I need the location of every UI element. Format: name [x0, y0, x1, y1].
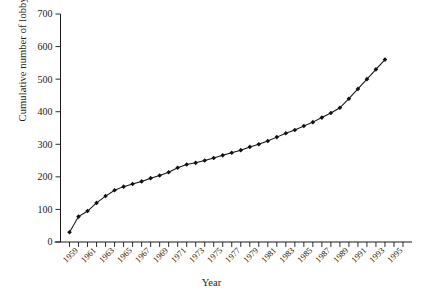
line-chart-plot: 0100200300400500600700 19591961196319651…: [0, 0, 423, 297]
x-tick-label: 1969: [151, 245, 170, 264]
x-tick-label: 1973: [187, 245, 206, 264]
x-tick-label: 1983: [277, 245, 296, 264]
x-tick-label: 1967: [133, 245, 153, 265]
y-tick-label: 0: [48, 236, 53, 247]
x-tick-label: 1979: [241, 245, 260, 264]
x-tick-label: 1985: [295, 245, 314, 264]
data-point-markers: [67, 57, 387, 234]
data-point-marker: [311, 120, 316, 125]
data-point-marker: [229, 150, 234, 155]
data-point-marker: [148, 176, 153, 181]
x-tick-label: 1987: [313, 245, 333, 265]
y-tick-label: 400: [38, 106, 53, 117]
x-tick-label: 1991: [349, 245, 368, 264]
data-point-marker: [293, 128, 298, 133]
x-tick-label: 1981: [259, 245, 278, 264]
x-tick-label: 1965: [115, 245, 134, 264]
x-axis-label: Year: [0, 277, 423, 288]
x-tick-label: 1971: [169, 245, 188, 264]
data-point-marker: [139, 179, 144, 184]
data-point-marker: [284, 131, 289, 136]
data-point-marker: [320, 115, 325, 120]
x-tick-label: 1995: [385, 245, 404, 264]
x-tick-label: 1975: [205, 245, 224, 264]
data-point-marker: [202, 158, 207, 163]
data-point-marker: [121, 184, 126, 189]
x-tick-label: 1993: [367, 245, 386, 264]
data-series-line: [70, 60, 385, 233]
data-point-marker: [238, 148, 243, 153]
data-point-marker: [76, 214, 81, 219]
data-point-marker: [302, 124, 307, 129]
data-point-marker: [275, 135, 280, 140]
data-point-marker: [256, 142, 261, 147]
y-tick-label: 200: [38, 171, 53, 182]
x-tick-label: 1959: [61, 245, 80, 264]
x-axis-tick-labels: 1959196119631965196719691971197319751977…: [61, 245, 405, 265]
y-axis-ticks: 0100200300400500600700: [38, 8, 61, 247]
data-point-marker: [220, 153, 225, 158]
x-tick-label: 1963: [97, 245, 116, 264]
y-tick-label: 500: [38, 74, 53, 85]
data-point-marker: [329, 111, 334, 116]
y-tick-label: 700: [38, 8, 53, 19]
data-point-marker: [166, 170, 171, 175]
y-tick-label: 100: [38, 204, 53, 215]
x-tick-label: 1961: [79, 245, 98, 264]
x-axis-ticks: [70, 242, 403, 247]
chart-container: Cumulative number of lobbying groups 010…: [0, 0, 423, 297]
data-point-marker: [193, 161, 198, 166]
data-point-marker: [184, 162, 189, 167]
data-point-marker: [130, 182, 135, 187]
data-point-marker: [247, 145, 252, 150]
x-tick-label: 1977: [223, 245, 243, 265]
x-tick-label: 1989: [331, 245, 350, 264]
data-point-marker: [175, 165, 180, 170]
data-point-marker: [157, 173, 162, 178]
y-tick-label: 300: [38, 139, 53, 150]
data-point-marker: [211, 156, 216, 161]
data-point-marker: [67, 230, 72, 235]
data-point-marker: [265, 139, 270, 144]
y-tick-label: 600: [38, 41, 53, 52]
